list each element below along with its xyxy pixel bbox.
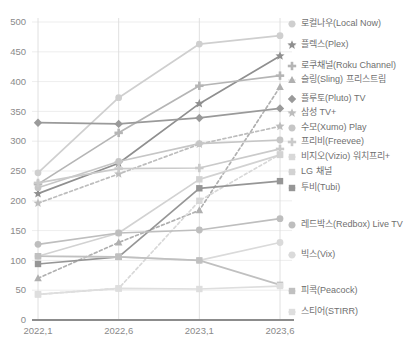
data-point-marker <box>35 169 42 176</box>
y-tick-label: 100 <box>10 255 26 266</box>
data-point-marker <box>115 230 122 237</box>
legend-label: 레드박스(Redbox) Live TV <box>301 219 403 229</box>
series-8 <box>35 151 283 297</box>
series-line <box>38 181 280 264</box>
data-point-marker <box>289 222 296 229</box>
legend-label: 수모(Xumo) Play <box>301 122 367 132</box>
data-point-marker <box>114 164 122 172</box>
y-tick-label: 50 <box>15 284 26 295</box>
series-line <box>38 108 280 123</box>
x-axis-tick-labels: 2022,12022,62023,12023,6 <box>23 325 294 336</box>
data-point-marker <box>288 62 296 70</box>
legend-item-0[interactable]: 로컬나우(Local Now) <box>288 18 381 28</box>
y-tick-label: 200 <box>10 195 26 206</box>
y-tick-label: 400 <box>10 76 26 87</box>
legend-label: 슬링(Sling) 프리스트림 <box>301 73 386 84</box>
legend-item-9[interactable]: LG 채널 <box>288 166 332 176</box>
data-point-marker <box>196 198 202 204</box>
line-chart: 050100150200250300350400450500 2022,1202… <box>0 0 410 352</box>
legend-label: LG 채널 <box>301 166 332 176</box>
data-point-marker <box>196 176 202 182</box>
legend-label: 삼성 TV+ <box>301 107 336 117</box>
legend-item-5[interactable]: 삼성 TV+ <box>287 107 336 117</box>
legend-item-11[interactable]: 레드박스(Redbox) Live TV <box>288 219 403 229</box>
x-tick-label: 2023,6 <box>265 325 294 336</box>
data-point-marker <box>277 283 283 289</box>
data-point-marker <box>196 140 203 147</box>
data-point-marker <box>115 285 121 291</box>
data-point-marker <box>277 239 284 246</box>
legend-label: 스티어(STIRR) <box>301 306 358 316</box>
x-tick-label: 2022,1 <box>23 325 52 336</box>
series-11 <box>35 215 284 247</box>
legend-label: 빅스(Vix) <box>301 249 335 259</box>
data-point-marker <box>288 138 296 146</box>
y-tick-label: 300 <box>10 135 26 146</box>
y-axis-tick-labels: 050100150200250300350400450500 <box>10 16 26 325</box>
y-tick-label: 450 <box>10 46 26 57</box>
data-point-marker <box>287 108 296 117</box>
chart-svg: 050100150200250300350400450500 2022,1202… <box>0 0 410 352</box>
data-point-marker <box>277 178 283 184</box>
data-point-marker <box>114 120 122 128</box>
data-point-marker <box>195 114 203 122</box>
data-point-marker <box>35 241 42 248</box>
legend-label: 투비(Tubi) <box>301 182 340 192</box>
legend-item-14[interactable]: 스티어(STIRR) <box>288 306 358 316</box>
y-tick-label: 500 <box>10 16 26 27</box>
data-point-marker <box>196 41 203 48</box>
series-layer <box>33 32 284 297</box>
x-tick-label: 2023,1 <box>185 325 214 336</box>
legend-item-2[interactable]: 로쿠채널(Roku Channel) <box>288 60 396 70</box>
chart-legend: 로컬나우(Local Now)플렉스(Plex)로쿠채널(Roku Channe… <box>287 18 402 316</box>
legend-item-4[interactable]: 플루토(Pluto) TV <box>288 93 366 103</box>
data-point-marker <box>276 71 284 79</box>
legend-label: 플렉스(Plex) <box>301 39 349 49</box>
y-tick-label: 250 <box>10 165 26 176</box>
legend-item-7[interactable]: 프리비(Freevee) <box>288 136 364 146</box>
data-point-marker <box>289 154 295 160</box>
data-point-marker <box>114 129 122 137</box>
legend-label: 프리비(Freevee) <box>301 136 364 146</box>
data-point-marker <box>277 152 283 158</box>
legend-item-8[interactable]: 비지오(Vizio) 워치프리+ <box>288 150 390 161</box>
data-point-marker <box>288 76 296 83</box>
data-point-marker <box>115 158 122 165</box>
series-line <box>38 56 280 194</box>
data-point-marker <box>289 169 295 175</box>
series-line <box>38 87 280 278</box>
legend-item-3[interactable]: 슬링(Sling) 프리스트림 <box>288 73 386 84</box>
y-tick-label: 350 <box>10 106 26 117</box>
data-point-marker <box>277 32 284 39</box>
data-point-marker <box>115 254 121 260</box>
legend-item-12[interactable]: 빅스(Vix) <box>288 249 335 259</box>
data-point-marker <box>289 185 295 191</box>
legend-label: 비지오(Vizio) 워치프리+ <box>301 150 390 161</box>
data-point-marker <box>196 257 202 263</box>
series-0 <box>35 32 284 176</box>
data-point-marker <box>34 119 42 127</box>
legend-item-13[interactable]: 피콕(Peacock) <box>288 285 358 295</box>
series-line <box>38 126 280 203</box>
legend-item-1[interactable]: 플렉스(Plex) <box>287 39 348 49</box>
data-point-marker <box>115 94 122 101</box>
series-line <box>38 155 280 256</box>
data-point-marker <box>277 137 284 144</box>
series-4 <box>34 104 284 128</box>
data-point-marker <box>289 21 296 28</box>
data-point-marker <box>195 82 203 90</box>
y-tick-label: 0 <box>21 314 26 325</box>
data-point-marker <box>35 261 41 267</box>
legend-label: 피콕(Peacock) <box>301 285 358 295</box>
legend-item-10[interactable]: 투비(Tubi) <box>288 182 340 192</box>
data-point-marker <box>276 83 284 90</box>
x-tick-label: 2022,6 <box>104 325 133 336</box>
series-6 <box>35 137 284 191</box>
legend-item-6[interactable]: 수모(Xumo) Play <box>288 122 367 132</box>
series-13 <box>35 253 283 288</box>
data-point-marker <box>288 95 296 103</box>
legend-label: 로쿠채널(Roku Channel) <box>301 60 396 70</box>
data-point-marker <box>35 253 41 259</box>
y-tick-label: 150 <box>10 225 26 236</box>
data-point-marker <box>287 40 296 49</box>
